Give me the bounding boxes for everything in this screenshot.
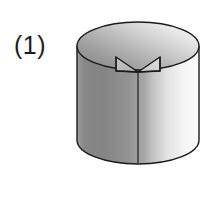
top-face-ellipse	[77, 22, 199, 70]
cylinder-top-face	[77, 22, 199, 70]
figure-canvas: (1)	[0, 0, 220, 220]
notched-cylinder-illustration	[0, 0, 220, 220]
